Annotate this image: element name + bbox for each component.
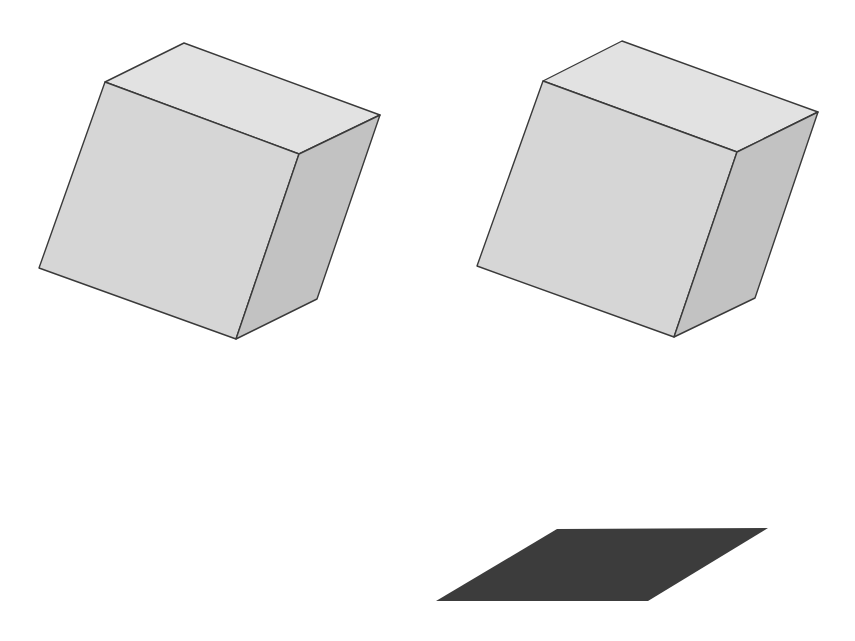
cube-right bbox=[477, 41, 818, 337]
figure-canvas bbox=[0, 0, 855, 641]
shadow-parallelogram bbox=[436, 528, 768, 601]
cube-left bbox=[39, 43, 380, 339]
